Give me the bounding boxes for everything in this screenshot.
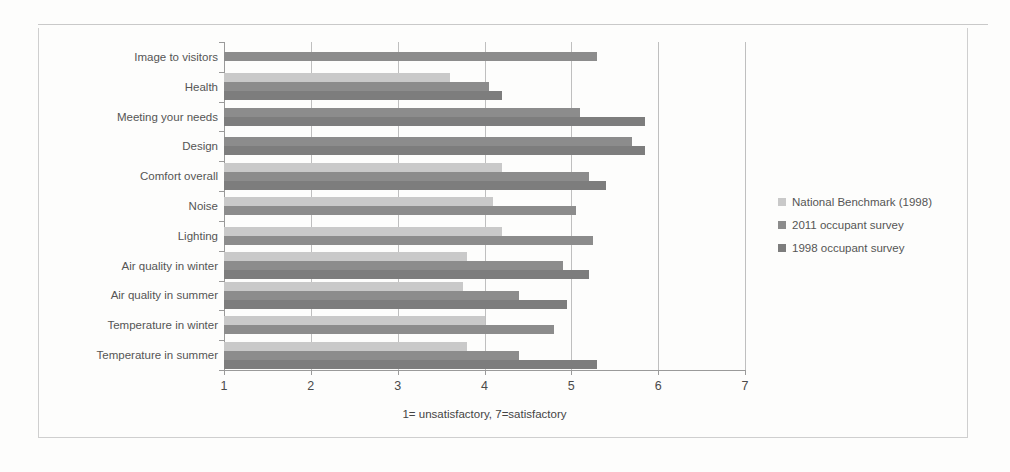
category-label: Meeting your needs (28, 111, 218, 123)
bar (224, 227, 502, 236)
x-axis-tick-label: 1 (209, 379, 239, 393)
bar (224, 181, 606, 190)
bar (224, 146, 645, 155)
bar (224, 342, 467, 351)
bar (224, 108, 580, 117)
category-label: Design (28, 140, 218, 152)
bar (224, 52, 597, 61)
legend-item[interactable]: National Benchmark (1998) (778, 190, 993, 213)
x-axis-tick-label: 5 (556, 379, 586, 393)
legend-swatch-icon (778, 244, 786, 252)
legend-item-label: 1998 occupant survey (792, 242, 905, 254)
bar (224, 91, 502, 100)
bar (224, 137, 632, 146)
plot-area (224, 42, 745, 370)
bar (224, 316, 485, 325)
bar (224, 282, 463, 291)
x-axis-tick-label: 3 (383, 379, 413, 393)
bar (224, 117, 645, 126)
bar (224, 270, 589, 279)
bar (224, 172, 589, 181)
legend-item[interactable]: 2011 occupant survey (778, 213, 993, 236)
bar (224, 206, 576, 215)
legend-item[interactable]: 1998 occupant survey (778, 236, 993, 259)
bar (224, 73, 450, 82)
bar (224, 163, 502, 172)
x-axis-tick (745, 370, 746, 375)
category-label: Air quality in summer (28, 289, 218, 301)
bar (224, 300, 567, 309)
category-label: Lighting (28, 230, 218, 242)
x-axis-tick (658, 370, 659, 375)
x-axis-tick-label: 4 (470, 379, 500, 393)
scanned-page: Image to visitorsHealthMeeting your need… (0, 0, 1010, 472)
bar (224, 82, 489, 91)
legend-item-label: National Benchmark (1998) (792, 196, 932, 208)
category-label: Temperature in summer (28, 349, 218, 361)
category-label: Image to visitors (28, 51, 218, 63)
x-axis-tick (311, 370, 312, 375)
legend-swatch-icon (778, 221, 786, 229)
bar (224, 261, 563, 270)
category-label: Noise (28, 200, 218, 212)
page-top-rule (38, 24, 988, 25)
bar (224, 197, 493, 206)
x-axis-tick-label: 6 (643, 379, 673, 393)
legend-item-label: 2011 occupant survey (792, 219, 904, 231)
gridline (745, 42, 746, 370)
x-axis-tick-label: 2 (296, 379, 326, 393)
chart-legend: National Benchmark (1998)2011 occupant s… (778, 190, 993, 259)
category-label: Health (28, 81, 218, 93)
bar (224, 236, 593, 245)
legend-swatch-icon (778, 198, 786, 206)
x-axis-tick (485, 370, 486, 375)
bar (224, 351, 519, 360)
category-label: Temperature in winter (28, 319, 218, 331)
bar (224, 325, 554, 334)
x-axis-tick (571, 370, 572, 375)
category-label: Air quality in winter (28, 260, 218, 272)
bar (224, 252, 467, 261)
x-axis-tick (224, 370, 225, 375)
bar (224, 291, 519, 300)
category-label: Comfort overall (28, 170, 218, 182)
x-axis-tick-label: 7 (730, 379, 760, 393)
x-axis-tick (398, 370, 399, 375)
category-axis-labels: Image to visitorsHealthMeeting your need… (20, 42, 218, 370)
bar (224, 360, 597, 369)
x-axis-title: 1= unsatisfactory, 7=satisfactory (224, 408, 745, 420)
